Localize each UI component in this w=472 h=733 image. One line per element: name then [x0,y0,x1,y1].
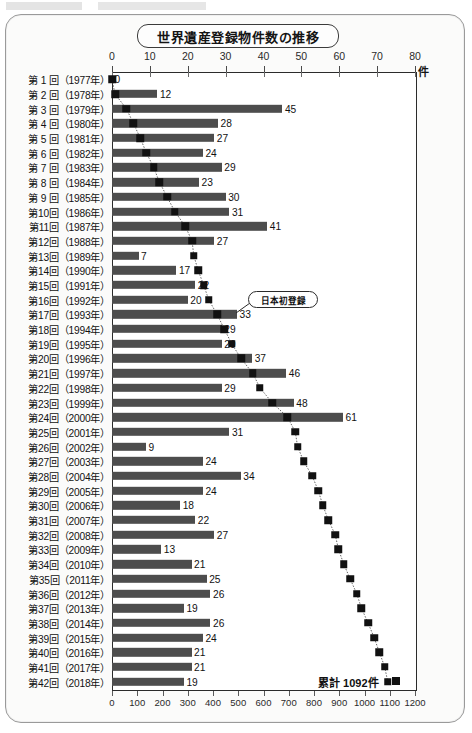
annotation-text: 日本初登録 [261,294,306,306]
bottom-axis-tick-label: 1100 [380,697,400,708]
category-row: 第 4 回（1980年） [6,116,110,131]
cumulative-marker [256,384,264,392]
category-label: 第24回（2000年） [28,410,110,425]
category-row: 第11回（1987年） [6,219,110,234]
category-label: 第22回（1998年） [28,380,110,395]
cumulative-marker [237,355,245,363]
category-row: 第29回（2005年） [6,483,110,498]
top-axis-tick-label: 70 [371,50,383,62]
category-row: 第14回（1990年） [6,263,110,278]
category-label: 第37回（2013年） [28,601,110,616]
category-row: 第18回（1994年） [6,322,110,337]
cumulative-row [112,616,415,631]
category-row: 第 2 回（1978年） [6,87,110,102]
top-axis-unit-label: 件 [418,63,429,79]
category-label: 第33回（2009年） [28,542,110,557]
category-row: 第36回（2012年） [6,586,110,601]
top-axis-tick-label: 0 [109,50,115,62]
cumulative-marker [111,90,119,98]
cumulative-row [112,234,415,249]
top-axis-tick-label: 40 [258,50,270,62]
cumulative-marker [205,296,213,304]
bottom-axis-tick [390,691,391,696]
category-row: 第25回（2001年） [6,425,110,440]
cumulative-row [112,483,415,498]
bottom-axis-tick-label: 500 [230,697,246,708]
cumulative-row [112,498,415,513]
bottom-axis-tick-label: 900 [331,697,347,708]
category-label: 第11回（1987年） [29,219,110,234]
category-row: 第20回（1996年） [6,351,110,366]
cumulative-row [112,527,415,542]
cumulative-marker [292,428,300,436]
cumulative-marker [308,472,316,480]
category-label: 第15回（1991年） [28,278,110,293]
cumulative-row [112,263,415,278]
cumulative-row [112,542,415,557]
cumulative-marker [381,663,389,671]
category-label: 第13回（1989年） [28,248,110,263]
category-label: 第31回（2007年） [28,513,110,528]
category-row: 第39回（2015年） [6,630,110,645]
category-row: 第12回（1988年） [6,234,110,249]
cumulative-marker [143,149,151,157]
cumulative-row [112,160,415,175]
cumulative-marker [384,678,392,686]
bottom-axis-tick [264,691,265,696]
cumulative-row [112,336,415,351]
cumulative-marker [213,311,221,319]
category-label: 第42回（2018年） [28,674,110,689]
cumulative-row [112,601,415,616]
category-row: 第16回（1992年） [6,292,110,307]
top-axis-tick-inner [415,72,416,77]
bottom-axis-tick [112,691,113,696]
cumulative-row [112,322,415,337]
chart-title-pill: 世界遺産登録物件数の推移 [137,24,339,48]
cumulative-row [112,307,415,322]
cumulative-marker [150,164,158,172]
cumulative-row [112,454,415,469]
cumulative-marker [181,222,189,230]
cumulative-marker [268,399,276,407]
cumulative-row [112,513,415,528]
cumulative-total-swatch [392,677,400,685]
category-label: 第20回（1996年） [28,351,110,366]
cumulative-row [112,72,415,87]
top-axis-tick-label: 30 [220,50,232,62]
category-row: 第22回（1998年） [6,381,110,396]
cumulative-line-layer [112,72,415,689]
cumulative-marker [358,604,366,612]
cumulative-marker [137,134,145,142]
cumulative-marker [249,369,257,377]
cumulative-row [112,204,415,219]
category-row: 第 8 回（1984年） [6,175,110,190]
category-label: 第 2 回（1978年） [28,87,110,102]
category-label: 第35回（2011年） [29,571,110,586]
category-row: 第13回（1989年） [6,248,110,263]
cumulative-row [112,248,415,263]
category-row: 第17回（1993年） [6,307,110,322]
cumulative-row [112,469,415,484]
cumulative-marker [294,443,302,451]
bottom-axis-tick [163,691,164,696]
category-label: 第16回（1992年） [28,292,110,307]
category-label: 第29回（2005年） [28,483,110,498]
chart-title: 世界遺産登録物件数の推移 [157,27,319,46]
category-row: 第 9 回（1985年） [6,190,110,205]
cumulative-row [112,395,415,410]
category-row: 第 6 回（1982年） [6,145,110,160]
cumulative-marker [163,193,171,201]
cumulative-marker [194,267,202,275]
cumulative-row [112,571,415,586]
cumulative-marker [331,531,339,539]
cumulative-marker [108,76,116,84]
bottom-axis-tick-label: 200 [155,697,171,708]
category-row: 第15回（1991年） [6,278,110,293]
category-label: 第 8 回（1984年） [28,175,110,190]
category-label: 第38回（2014年） [28,615,110,630]
category-label: 第 4 回（1980年） [28,116,110,131]
category-label: 第32回（2008年） [28,527,110,542]
category-row: 第24回（2000年） [6,410,110,425]
cumulative-marker [325,516,333,524]
cumulative-marker [364,619,372,627]
